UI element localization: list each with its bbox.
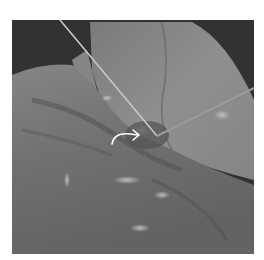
photo-content xyxy=(12,20,254,254)
surgical-photo xyxy=(12,20,254,254)
